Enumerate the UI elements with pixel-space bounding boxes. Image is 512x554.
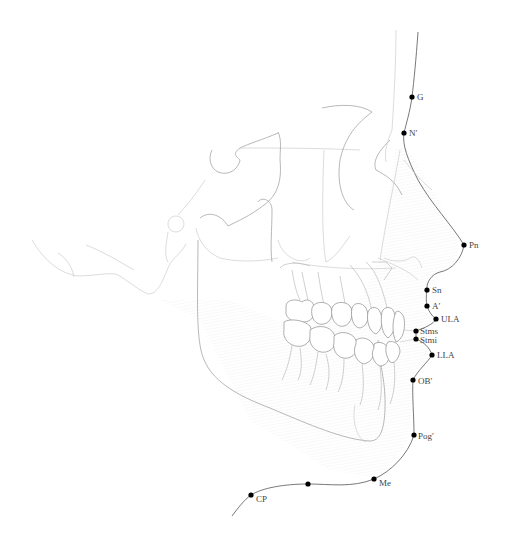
landmark-dot [248,492,253,497]
landmark-me[interactable]: Me [371,476,391,488]
landmark-dot [371,476,376,481]
landmark-label: Pog′ [418,431,434,441]
landmark-pn[interactable]: Pn [461,240,479,250]
landmark-label: N′ [409,128,417,138]
inner-forehead-line [385,30,396,162]
landmark-ula[interactable]: ULA [433,314,460,324]
landmark-label: A′ [432,301,440,311]
landmark-label: Stmi [420,335,438,345]
landmark-dot [461,242,466,247]
landmark-dot [410,377,415,382]
landmark-unlabeled[interactable] [305,481,310,486]
landmark-lla[interactable]: LLA [429,350,455,360]
landmark-dot [401,130,406,135]
landmark-pog-prime[interactable]: Pog′ [411,431,434,441]
cranial-base-outline [32,132,360,294]
landmark-dot [429,352,434,357]
landmark-dot [424,303,429,308]
cephalometric-diagram: G N′ Pn Sn A′ ULA Stms Stmi LLA OB′ Pog′ [0,0,512,554]
soft-tissue-shading [30,145,460,478]
landmark-dot [424,287,429,292]
landmark-label: Sn [432,285,442,295]
landmark-dot [305,481,310,486]
landmark-dot [411,432,416,437]
landmark-dot [413,328,418,333]
landmark-label: G [417,92,424,102]
landmark-label: CP [256,494,267,504]
landmark-label: LLA [437,350,455,360]
landmark-label: Me [379,478,391,488]
landmark-dot [433,316,438,321]
landmark-label: OB′ [418,376,433,386]
landmark-dot [409,94,414,99]
landmark-a-prime[interactable]: A′ [424,301,440,311]
landmark-label: ULA [441,314,460,324]
landmark-dot [413,336,418,341]
landmark-label: Pn [469,240,479,250]
landmark-cp[interactable]: CP [248,492,267,504]
